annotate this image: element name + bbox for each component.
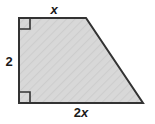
bottom-side-length-label: 2x (19, 106, 143, 119)
geometry-figure: x 2 2x (0, 0, 155, 124)
bottom-side-variable: x (81, 105, 88, 120)
top-side-length-label: x (0, 3, 108, 16)
bottom-side-coefficient: 2 (74, 105, 81, 120)
trapezoid-shape (19, 18, 143, 103)
left-side-length-label: 2 (0, 55, 18, 68)
